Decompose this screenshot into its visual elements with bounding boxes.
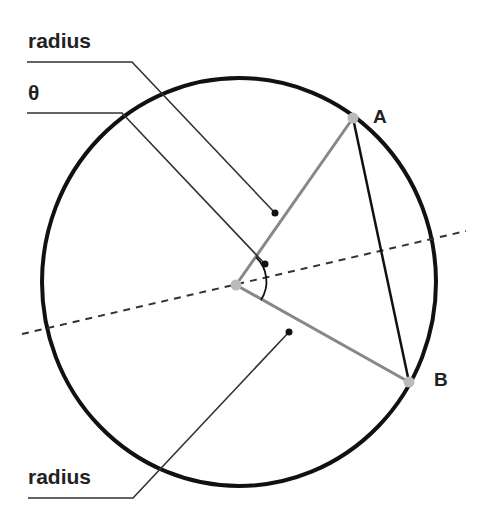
radius-line-a — [236, 118, 353, 285]
circle-diagram: radius θ radius A B — [0, 0, 492, 522]
label-radius-top: radius — [28, 29, 91, 52]
label-theta: θ — [28, 81, 39, 104]
label-radius-bottom: radius — [28, 465, 91, 488]
point-b — [404, 377, 415, 388]
leader-dot-theta — [262, 261, 269, 268]
leader-dot-radius-top — [272, 210, 279, 217]
dashed-axis — [22, 231, 466, 334]
diagram-canvas: radius θ radius A B — [0, 0, 492, 522]
label-point-b: B — [434, 369, 448, 390]
leader-dot-radius-bottom — [286, 329, 293, 336]
point-a — [348, 113, 359, 124]
label-point-a: A — [373, 106, 387, 127]
center-point — [231, 280, 242, 291]
chord-ab — [353, 118, 409, 382]
